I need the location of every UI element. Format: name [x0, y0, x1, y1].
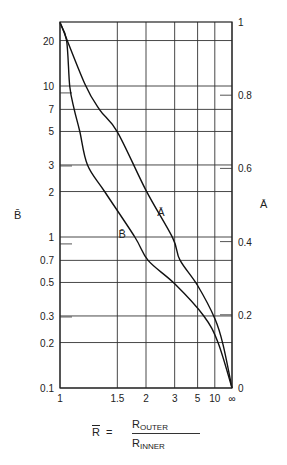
left-tick-label: 0.3	[40, 311, 54, 322]
left-tick-label: 2	[48, 187, 54, 198]
right-axis-label: Ā	[260, 198, 268, 210]
formula-lhs: R	[92, 426, 100, 438]
left-tick-label: 7	[48, 104, 54, 115]
left-tick-label: 3	[48, 160, 54, 171]
left-tick-label: 0.2	[40, 338, 54, 349]
formula-equals: =	[106, 426, 112, 438]
grid-lines	[60, 22, 232, 388]
left-tick-label: 20	[43, 36, 55, 47]
right-axis-ticks: 00.20.40.60.81	[238, 17, 252, 394]
left-tick-label: 0.7	[40, 255, 54, 266]
x-tick-label: 10	[209, 393, 221, 404]
right-tick-label: 1	[238, 17, 244, 28]
x-tick-label: ∞	[228, 393, 235, 404]
right-tick-label: 0.8	[238, 90, 252, 101]
left-tick-label: 1	[48, 232, 54, 243]
x-axis-formula: R = ROUTER RINNER	[92, 418, 212, 458]
x-tick-label: 1.5	[110, 393, 124, 404]
right-tick-label: 0.6	[238, 163, 252, 174]
series-label-a: Ā	[157, 206, 165, 218]
left-axis-ticks: 0.10.20.30.50.7123571020	[40, 36, 54, 394]
x-axis-ticks: 11.523510∞	[57, 393, 235, 404]
chart: 0.10.20.30.50.7123571020 00.20.40.60.81 …	[0, 0, 287, 465]
formula-numerator: ROUTER	[132, 418, 168, 432]
right-tick-label: 0.2	[238, 310, 252, 321]
left-axis-label: B̄	[14, 209, 21, 221]
left-tick-label: 5	[48, 126, 54, 137]
left-tick-label: 0.5	[40, 277, 54, 288]
x-tick-label: 5	[195, 393, 201, 404]
formula-denominator: RINNER	[132, 437, 165, 451]
left-tick-label: 10	[43, 81, 55, 92]
left-tick-label: 0.1	[40, 383, 54, 394]
right-tick-label: 0.4	[238, 237, 252, 248]
x-tick-label: 2	[143, 393, 149, 404]
x-tick-label: 3	[172, 393, 178, 404]
right-tick-label: 0	[238, 383, 244, 394]
series-label-b: B̄	[119, 228, 126, 240]
x-tick-label: 1	[57, 393, 63, 404]
formula-fraction-bar	[132, 433, 200, 434]
